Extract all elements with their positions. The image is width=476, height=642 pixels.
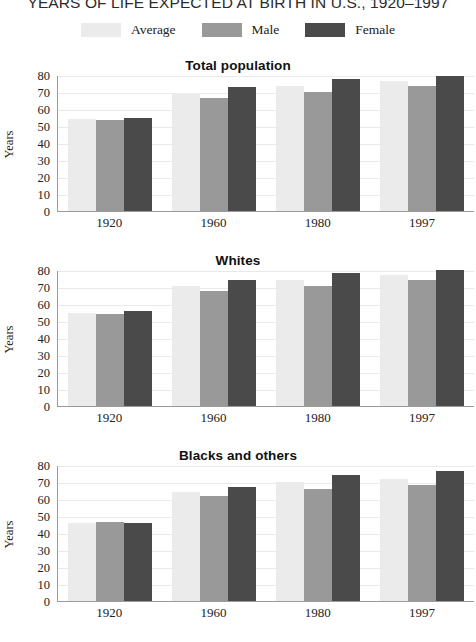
bar — [408, 86, 436, 211]
y-tick-label: 30 — [38, 155, 51, 168]
bar-groups — [58, 271, 474, 406]
x-tick-label: 1920 — [57, 212, 161, 234]
bar-group — [370, 466, 474, 601]
y-tick-label: 20 — [38, 562, 51, 575]
legend-item-male: Male — [202, 22, 280, 38]
bar-group — [370, 271, 474, 406]
y-tick-label: 0 — [44, 401, 50, 414]
y-tick-label: 10 — [38, 189, 51, 202]
plot-canvas — [57, 466, 474, 602]
y-tick-label: 60 — [38, 104, 51, 117]
bar — [276, 280, 304, 406]
bar — [124, 118, 152, 211]
bar — [276, 86, 304, 211]
y-axis-label: Years — [2, 76, 18, 212]
x-tick-label: 1960 — [161, 407, 265, 429]
bar — [228, 87, 256, 211]
y-tick-label: 10 — [38, 579, 51, 592]
y-tick-label: 50 — [38, 121, 51, 134]
bar-group — [162, 271, 266, 406]
bar — [200, 98, 228, 211]
y-tick-label: 40 — [38, 333, 51, 346]
bar — [228, 280, 256, 406]
y-axis-ticks: 80706050403020100 — [20, 271, 54, 407]
bar-group — [58, 271, 162, 406]
x-tick-label: 1960 — [161, 212, 265, 234]
bar-group — [266, 76, 370, 211]
y-tick-label: 0 — [44, 596, 50, 609]
bar — [68, 523, 96, 601]
y-tick-label: 80 — [38, 460, 51, 473]
y-tick-label: 30 — [38, 545, 51, 558]
y-axis-ticks: 80706050403020100 — [20, 76, 54, 212]
bar — [200, 291, 228, 406]
plot-canvas — [57, 76, 474, 212]
bar — [436, 270, 464, 406]
bar — [124, 311, 152, 406]
bar-group — [370, 76, 474, 211]
chart-panel-whites: Whites Years 80706050403020100 192019601… — [0, 253, 476, 429]
bar — [380, 275, 408, 406]
y-tick-label: 60 — [38, 494, 51, 507]
x-tick-label: 1980 — [266, 212, 370, 234]
bar — [380, 81, 408, 211]
bar — [304, 489, 332, 601]
bar — [172, 93, 200, 211]
legend-label-male: Male — [252, 22, 280, 38]
bar — [380, 479, 408, 601]
panel-title: Total population — [0, 58, 476, 73]
legend-swatch-female — [305, 23, 345, 37]
bar — [200, 496, 228, 601]
bar-groups — [58, 76, 474, 211]
x-axis-ticks: 1920196019801997 — [57, 602, 474, 624]
y-tick-label: 40 — [38, 528, 51, 541]
y-tick-label: 80 — [38, 70, 51, 83]
plot-area: Years 80706050403020100 — [0, 271, 476, 407]
y-tick-label: 30 — [38, 350, 51, 363]
bar — [96, 314, 124, 406]
bar — [408, 485, 436, 601]
x-axis-ticks: 1920196019801997 — [57, 407, 474, 429]
bar — [68, 119, 96, 211]
bar — [436, 471, 464, 601]
bar — [96, 120, 124, 211]
y-axis-label-text: Years — [3, 130, 18, 158]
bar-group — [58, 76, 162, 211]
y-axis-label: Years — [2, 271, 18, 407]
x-tick-label: 1997 — [370, 602, 474, 624]
bar-group — [58, 466, 162, 601]
legend-label-female: Female — [355, 22, 395, 38]
chart-panel-blacks-and-others: Blacks and others Years 8070605040302010… — [0, 448, 476, 624]
y-tick-label: 70 — [38, 87, 51, 100]
bar — [68, 313, 96, 406]
bar-group — [266, 466, 370, 601]
y-tick-label: 40 — [38, 138, 51, 151]
x-tick-label: 1920 — [57, 602, 161, 624]
bar — [304, 286, 332, 406]
bar — [332, 475, 360, 601]
bar-group — [162, 466, 266, 601]
y-axis-ticks: 80706050403020100 — [20, 466, 54, 602]
bar — [436, 76, 464, 211]
legend-item-female: Female — [305, 22, 395, 38]
y-axis-label-text: Years — [3, 325, 18, 353]
x-axis-ticks: 1920196019801997 — [57, 212, 474, 234]
panel-title: Blacks and others — [0, 448, 476, 463]
panel-title: Whites — [0, 253, 476, 268]
y-tick-label: 50 — [38, 316, 51, 329]
bar-group — [266, 271, 370, 406]
bar — [228, 487, 256, 601]
y-tick-label: 50 — [38, 511, 51, 524]
bar-group — [162, 76, 266, 211]
bar — [276, 482, 304, 602]
bar — [96, 522, 124, 601]
y-tick-label: 10 — [38, 384, 51, 397]
bar — [408, 280, 436, 406]
x-tick-label: 1980 — [266, 407, 370, 429]
y-tick-label: 20 — [38, 172, 51, 185]
x-tick-label: 1960 — [161, 602, 265, 624]
bar — [332, 273, 360, 406]
y-tick-label: 20 — [38, 367, 51, 380]
legend-item-average: Average — [81, 22, 176, 38]
bar — [172, 286, 200, 406]
